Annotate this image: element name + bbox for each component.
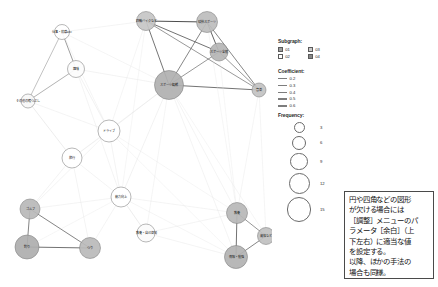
node-circle[interactable] bbox=[258, 228, 273, 245]
network-edge bbox=[121, 85, 169, 197]
network-node[interactable]: 教養 bbox=[227, 203, 248, 224]
frequency-legend-item: 6 bbox=[278, 135, 344, 151]
subgraph-checkbox-item[interactable]: 03 bbox=[308, 47, 338, 52]
frequency-legend-list: 3691215 bbox=[278, 121, 344, 223]
coefficient-line-sample bbox=[278, 92, 287, 93]
node-circle[interactable] bbox=[227, 203, 248, 224]
node-circle[interactable] bbox=[252, 83, 266, 97]
annotation-note-line: ［調整］メニューのパ bbox=[349, 216, 430, 226]
network-node[interactable]: スポーツ観戦 bbox=[155, 71, 184, 100]
frequency-value-label: 12 bbox=[320, 181, 325, 186]
network-node[interactable]: 釣り bbox=[15, 235, 39, 259]
frequency-legend: Frequency: 3691215 bbox=[278, 112, 344, 224]
subgraph-checkbox[interactable] bbox=[308, 54, 313, 59]
subgraph-checkbox[interactable] bbox=[278, 54, 283, 59]
coefficient-legend-item: 0.5 bbox=[278, 96, 340, 101]
network-node[interactable]: 仕事・就職etc bbox=[52, 25, 72, 40]
network-edge bbox=[219, 52, 237, 213]
network-node[interactable]: ドライブ bbox=[98, 120, 120, 142]
coefficient-value-label: 0.3 bbox=[290, 83, 296, 88]
network-node[interactable]: 旅行 bbox=[62, 148, 82, 168]
subgraph-checkbox-label: 04 bbox=[315, 54, 320, 59]
network-node[interactable]: 情報・勉強 bbox=[225, 246, 248, 269]
node-circle[interactable] bbox=[155, 71, 184, 100]
network-node[interactable]: その他の暇つぶし bbox=[16, 94, 40, 108]
network-node[interactable]: 能力向上 bbox=[111, 187, 131, 207]
subgraph-checkbox-group[interactable]: 01030204 bbox=[278, 47, 338, 61]
network-edge bbox=[30, 131, 109, 209]
network-node[interactable]: 資格など bbox=[258, 228, 273, 245]
subgraph-checkbox-item[interactable]: 04 bbox=[308, 54, 338, 59]
coefficient-value-label: 0.5 bbox=[290, 96, 296, 101]
node-circle[interactable] bbox=[111, 187, 131, 207]
network-node[interactable]: ゴルフ bbox=[20, 199, 40, 219]
network-node[interactable]: つり bbox=[80, 238, 101, 259]
frequency-circle-cell bbox=[278, 135, 320, 151]
node-circle[interactable] bbox=[98, 120, 120, 142]
network-edge bbox=[169, 85, 266, 236]
node-layer[interactable]: 仕事・就職etc趣味その他の暇つぶしドライブ旅行四輪バイクなど球技スポーツスポー… bbox=[15, 12, 272, 269]
frequency-value-label: 3 bbox=[320, 125, 322, 130]
frequency-circle-sample bbox=[287, 197, 312, 222]
coefficient-legend-item: 0.6 bbox=[278, 103, 340, 108]
coefficient-line-sample bbox=[278, 78, 287, 79]
frequency-legend-item: 9 bbox=[278, 152, 344, 172]
annotation-note-box: 円や四角などの図形が欠ける場合には［調整］メニューのパラメータ［余白］（上下左右… bbox=[344, 191, 434, 279]
network-edge bbox=[28, 32, 62, 101]
annotation-note-line: を設定する。 bbox=[349, 247, 430, 257]
coefficient-legend-title: Coefficient: bbox=[278, 68, 340, 74]
co-occurrence-network-graph[interactable]: 仕事・就職etc趣味その他の暇つぶしドライブ旅行四輪バイクなど球技スポーツスポー… bbox=[0, 0, 272, 287]
frequency-legend-item: 3 bbox=[278, 121, 344, 134]
network-node[interactable]: 教養・自己啓発 bbox=[136, 224, 157, 242]
node-circle[interactable] bbox=[20, 199, 40, 219]
subgraph-legend-title: Subgraph: bbox=[278, 38, 340, 44]
network-node[interactable]: 四輪バイクなど bbox=[136, 12, 157, 31]
coefficient-legend-item: 0.4 bbox=[278, 90, 340, 95]
network-edge bbox=[30, 197, 121, 209]
frequency-legend-item: 12 bbox=[278, 172, 344, 195]
frequency-legend-title: Frequency: bbox=[278, 112, 344, 118]
subgraph-checkbox-label: 03 bbox=[315, 47, 320, 52]
frequency-value-label: 9 bbox=[320, 159, 322, 164]
network-edge bbox=[27, 197, 121, 247]
annotation-note-text: 円や四角などの図形が欠ける場合には［調整］メニューのパラメータ［余白］（上下左右… bbox=[349, 195, 430, 278]
subgraph-checkbox-label: 02 bbox=[285, 54, 290, 59]
annotation-note-line: 円や四角などの図形 bbox=[349, 195, 430, 205]
network-node[interactable]: 趣味 bbox=[68, 61, 85, 78]
node-circle[interactable] bbox=[21, 94, 35, 108]
frequency-circle-cell bbox=[278, 172, 320, 195]
node-circle[interactable] bbox=[15, 235, 39, 259]
network-edge bbox=[28, 101, 72, 158]
node-circle[interactable] bbox=[197, 12, 218, 33]
network-node[interactable]: 音楽 bbox=[252, 83, 266, 97]
frequency-circle-cell bbox=[278, 152, 320, 172]
node-circle[interactable] bbox=[225, 246, 248, 269]
network-node[interactable]: 球技スポーツ bbox=[197, 12, 218, 33]
subgraph-checkbox-item[interactable]: 01 bbox=[278, 47, 308, 52]
frequency-circle-cell bbox=[278, 196, 320, 223]
node-circle[interactable] bbox=[62, 148, 82, 168]
network-edge bbox=[169, 85, 236, 257]
node-circle[interactable] bbox=[68, 61, 85, 78]
coefficient-line-sample bbox=[278, 105, 287, 107]
coefficient-value-label: 0.4 bbox=[290, 90, 296, 95]
node-circle[interactable] bbox=[55, 25, 70, 40]
subgraph-checkbox-item[interactable]: 02 bbox=[278, 54, 308, 59]
network-node[interactable]: スポーツ全般 bbox=[210, 43, 228, 61]
legend-panel: Subgraph: 01030204 Coefficient: 0.20.30.… bbox=[278, 38, 340, 110]
node-circle[interactable] bbox=[137, 12, 156, 31]
network-edge bbox=[259, 90, 266, 236]
subgraph-checkbox[interactable] bbox=[308, 47, 313, 52]
coefficient-legend-item: 0.3 bbox=[278, 83, 340, 88]
network-edge bbox=[72, 85, 169, 158]
node-circle[interactable] bbox=[137, 224, 155, 242]
node-circle[interactable] bbox=[210, 43, 228, 61]
node-circle[interactable] bbox=[80, 238, 101, 259]
annotation-note-line: 以降、ほかの手法の bbox=[349, 257, 430, 267]
frequency-circle-sample bbox=[294, 122, 305, 133]
frequency-circle-cell bbox=[278, 121, 320, 134]
screenshot-root: 仕事・就職etc趣味その他の暇つぶしドライブ旅行四輪バイクなど球技スポーツスポー… bbox=[0, 0, 438, 287]
annotation-note-line: ラメータ［余白］（上 bbox=[349, 226, 430, 236]
subgraph-checkbox[interactable] bbox=[278, 47, 283, 52]
network-svg[interactable]: 仕事・就職etc趣味その他の暇つぶしドライブ旅行四輪バイクなど球技スポーツスポー… bbox=[0, 0, 272, 287]
